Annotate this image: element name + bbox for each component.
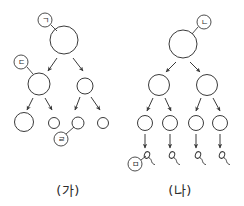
division-arrow (48, 58, 57, 71)
cell-circle (189, 116, 204, 131)
cell-circle (98, 118, 109, 129)
cell-circle (163, 116, 178, 131)
division-arrow (91, 97, 100, 110)
division-arrow (196, 98, 201, 111)
label-leader-line (66, 127, 74, 134)
division-arrow (213, 98, 220, 111)
sperm-tail (200, 158, 205, 165)
sperm-tail (174, 158, 179, 165)
division-arrow (27, 98, 33, 110)
division-arrow (45, 98, 52, 110)
panel-ga: ㄱㄷㄹ(가) (14, 13, 109, 198)
label-digeut-text: ㄷ (18, 58, 25, 67)
division-arrow (73, 58, 83, 71)
cell-circle (49, 118, 60, 129)
cell-circle (77, 78, 93, 94)
division-arrow (147, 98, 153, 111)
cell-circle (197, 75, 218, 96)
label-rieul-text: ㄹ (58, 135, 65, 144)
cell-circle (28, 73, 50, 95)
label-leader-line (192, 27, 198, 34)
label-nieun-text: ㄴ (201, 18, 208, 27)
diagram-canvas: ㄱㄷㄹ(가)ㄴㅁ(나) (0, 0, 244, 206)
panel-na: ㄴㅁ(나) (128, 15, 230, 198)
cell-circle (169, 30, 197, 58)
panel-ga-caption: (가) (56, 183, 79, 198)
cell-circle (213, 116, 228, 131)
panel-na-caption: (나) (168, 183, 191, 198)
sperm-tail (224, 158, 229, 165)
division-arrow (75, 97, 80, 110)
cell-circle (149, 75, 170, 96)
division-arrow (190, 62, 200, 72)
division-arrow (166, 62, 176, 72)
cell-circle (15, 113, 34, 132)
cell-circle (50, 26, 78, 54)
label-mieum-text: ㅁ (132, 160, 139, 169)
division-arrow (165, 98, 171, 111)
cell-circle (138, 116, 153, 131)
label-leader-line (27, 67, 33, 74)
label-giyeok-text: ㄱ (42, 16, 49, 25)
sperm-tail (149, 158, 154, 165)
figure-root: ㄱㄷㄹ(가)ㄴㅁ(나) (0, 0, 244, 206)
